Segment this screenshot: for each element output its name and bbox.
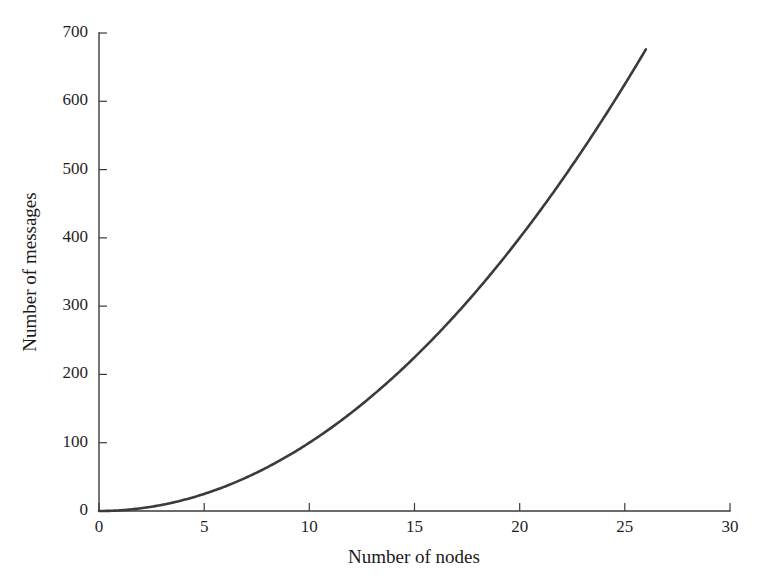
y-tick-label-200: 200 bbox=[63, 363, 89, 382]
x-tick-label-15: 15 bbox=[406, 517, 423, 536]
y-axis-tick-labels: 0 100 200 300 400 500 600 700 bbox=[63, 22, 89, 519]
y-tick-label-500: 500 bbox=[63, 159, 89, 178]
y-tick-label-400: 400 bbox=[63, 227, 89, 246]
x-axis-tick-labels: 0 5 10 15 20 25 30 bbox=[95, 517, 739, 536]
x-tick-label-10: 10 bbox=[301, 517, 318, 536]
x-tick-label-20: 20 bbox=[511, 517, 528, 536]
y-tick-label-300: 300 bbox=[63, 295, 89, 314]
y-axis-title: Number of messages bbox=[19, 192, 40, 351]
data-series-line bbox=[99, 49, 646, 511]
x-tick-label-25: 25 bbox=[616, 517, 633, 536]
x-tick-label-5: 5 bbox=[200, 517, 209, 536]
x-tick-label-0: 0 bbox=[95, 517, 104, 536]
y-tick-label-600: 600 bbox=[63, 90, 89, 109]
x-tick-label-30: 30 bbox=[722, 517, 739, 536]
y-tick-label-100: 100 bbox=[63, 432, 89, 451]
chart-canvas: 0 100 200 300 400 500 600 700 0 5 10 15 … bbox=[0, 0, 762, 576]
y-axis-ticks bbox=[99, 33, 107, 511]
chart-figure: 0 100 200 300 400 500 600 700 0 5 10 15 … bbox=[0, 0, 762, 576]
x-axis-ticks bbox=[99, 503, 730, 511]
x-axis-title: Number of nodes bbox=[348, 546, 480, 567]
y-tick-label-0: 0 bbox=[80, 500, 89, 519]
y-tick-label-700: 700 bbox=[63, 22, 89, 41]
